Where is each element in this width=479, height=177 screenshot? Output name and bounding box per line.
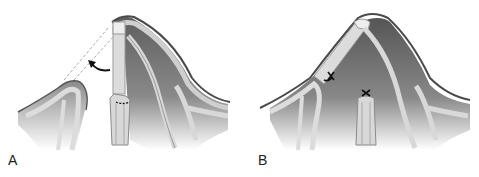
panel-b-illustration (240, 0, 479, 177)
panel-label-a: A (8, 152, 17, 168)
rotation-arrow-icon (92, 64, 110, 70)
panel-a: A (0, 0, 240, 177)
panel-label-b: B (258, 152, 267, 168)
panel-b: B (240, 0, 479, 177)
panel-a-illustration (0, 0, 240, 177)
